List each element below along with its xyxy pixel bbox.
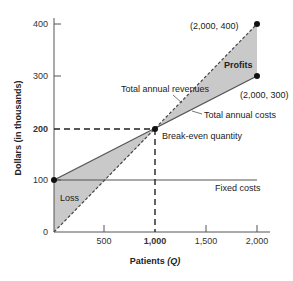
y-tick-label-300: 300	[33, 71, 48, 81]
y-tick-label-0: 0	[43, 227, 48, 237]
x-tick-label-1500: 1,500	[195, 236, 218, 246]
y-tick-label-400: 400	[33, 19, 48, 29]
x-axis-title-main: Patients	[130, 256, 168, 266]
label-breakeven: Break-even quantity	[162, 131, 243, 141]
point-0-100	[51, 177, 57, 183]
x-tick-label-2000: 2,000	[246, 236, 269, 246]
label-fixed-costs: Fixed costs	[215, 183, 261, 193]
x-tick-label-500: 500	[96, 236, 111, 246]
label-profits: Profits	[224, 60, 253, 70]
point-2000-300	[254, 73, 260, 79]
break-even-chart: 400 300 200 100 0 500 1,000 1,500 2,000 …	[0, 0, 293, 281]
y-tick-label-200: 200	[33, 124, 48, 134]
x-tick-label-1000: 1,000	[144, 236, 167, 246]
revenues-leader	[173, 95, 182, 103]
costs-leader	[192, 111, 202, 114]
label-loss: Loss	[60, 193, 80, 203]
label-point-bottom: (2,000, 300)	[240, 90, 289, 100]
x-axis-title-var: (Q)	[167, 256, 180, 266]
point-breakeven	[152, 126, 158, 132]
label-point-top: (2,000, 400)	[190, 21, 239, 31]
label-total-revenues: Total annual revenues	[121, 84, 210, 94]
y-axis-title: Dollars (in thousands)	[13, 80, 23, 175]
x-axis-title: Patients (Q)	[130, 256, 181, 266]
label-total-costs: Total annual costs	[204, 110, 277, 120]
y-tick-label-100: 100	[33, 175, 48, 185]
point-2000-400	[254, 21, 260, 27]
chart-canvas: 400 300 200 100 0 500 1,000 1,500 2,000 …	[0, 0, 293, 281]
